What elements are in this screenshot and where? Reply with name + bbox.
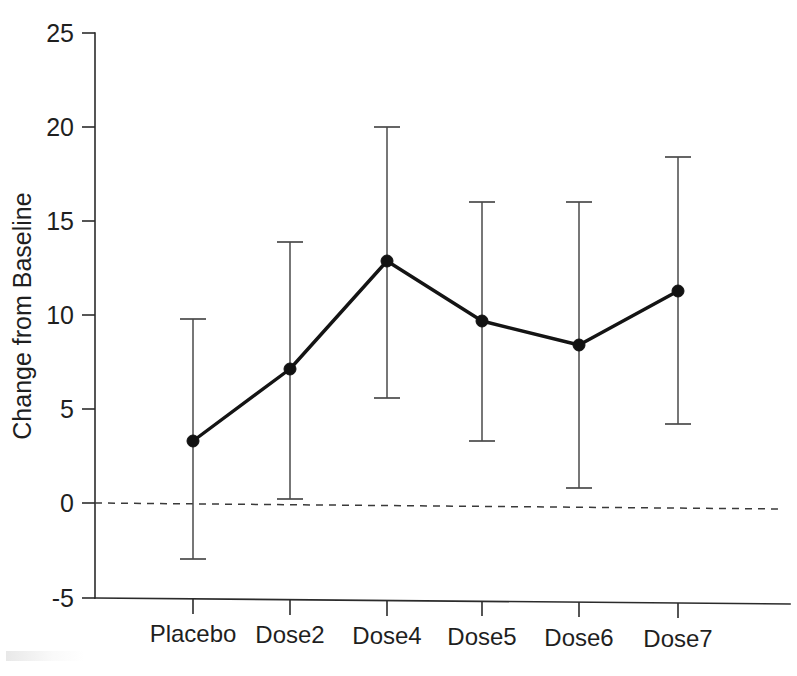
- chart-figure: 25 20 15 10 5 0 -5 Change from Baseline …: [0, 0, 797, 676]
- x-axis-category-labels: Placebo Dose2 Dose4 Dose5 Dose6 Dose7: [150, 620, 713, 652]
- x-label-placebo: Placebo: [150, 620, 237, 647]
- x-axis-line: [95, 598, 790, 604]
- data-point-placebo: [187, 435, 199, 447]
- line-chart-with-error-bars: 25 20 15 10 5 0 -5 Change from Baseline …: [0, 0, 797, 676]
- x-label-dose4: Dose4: [352, 622, 421, 649]
- x-label-dose7: Dose7: [643, 625, 712, 652]
- y-axis-ticks: [82, 33, 95, 598]
- y-tick-label-25: 25: [46, 19, 74, 47]
- y-axis-title: Change from Baseline: [8, 192, 36, 439]
- series-line-mean-change: [193, 261, 678, 441]
- data-point-dose6: [573, 339, 585, 351]
- data-point-markers: [187, 255, 684, 447]
- zero-reference-line: [95, 503, 782, 509]
- x-label-dose5: Dose5: [447, 623, 516, 650]
- data-point-dose5: [476, 315, 488, 327]
- y-axis-tick-labels: 25 20 15 10 5 0 -5: [46, 19, 74, 612]
- y-tick-label-10: 10: [46, 301, 74, 329]
- data-point-dose7: [672, 285, 684, 297]
- x-label-dose2: Dose2: [255, 621, 324, 648]
- error-bars: [180, 127, 691, 559]
- y-tick-label-0: 0: [60, 489, 74, 517]
- y-tick-label-minus5: -5: [52, 584, 74, 612]
- data-point-dose2: [284, 363, 296, 375]
- scan-artifact: [6, 651, 84, 661]
- y-tick-label-15: 15: [46, 207, 74, 235]
- data-point-dose4: [381, 255, 393, 267]
- y-tick-label-5: 5: [60, 395, 74, 423]
- x-label-dose6: Dose6: [544, 624, 613, 651]
- y-tick-label-20: 20: [46, 113, 74, 141]
